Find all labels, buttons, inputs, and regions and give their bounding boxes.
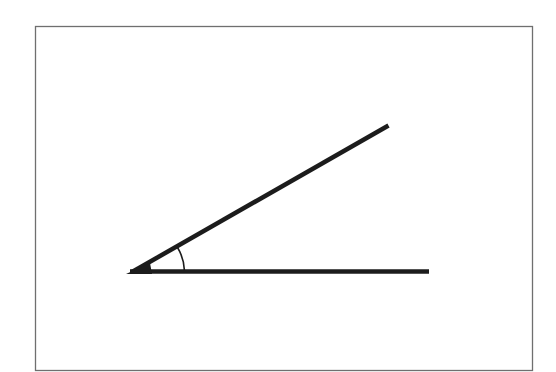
diagram-frame	[36, 27, 533, 371]
angle-diagram	[0, 0, 556, 372]
